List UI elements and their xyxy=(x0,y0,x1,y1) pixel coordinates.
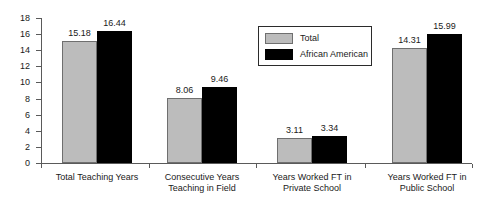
y-tick-mark xyxy=(36,147,41,148)
bar-value-label: 15.99 xyxy=(421,22,468,31)
legend-label-african-american: African American xyxy=(300,50,368,59)
y-tick-label: 14 xyxy=(0,46,30,55)
x-tick-mark xyxy=(149,164,150,168)
legend-swatch-african-american-icon xyxy=(265,49,293,60)
y-tick-label: 0 xyxy=(0,159,30,168)
bar-value-label: 15.18 xyxy=(56,29,103,38)
bar-value-label: 16.44 xyxy=(91,19,138,28)
x-tick-mark xyxy=(365,164,366,168)
y-tick-label: 8 xyxy=(0,95,30,104)
x-tick-mark xyxy=(41,164,42,168)
bar xyxy=(427,34,462,163)
y-tick-label: 4 xyxy=(0,127,30,136)
bar xyxy=(167,98,202,163)
y-tick-label: 12 xyxy=(0,62,30,71)
y-tick-label: 18 xyxy=(0,14,30,23)
legend-label-total: Total xyxy=(300,34,319,43)
x-tick-mark xyxy=(256,164,257,168)
bar xyxy=(62,41,97,163)
bar-value-label: 14.31 xyxy=(386,36,433,45)
bar-value-label: 8.06 xyxy=(161,86,208,95)
bar xyxy=(312,136,347,163)
y-tick-mark xyxy=(36,18,41,19)
y-tick-label: 6 xyxy=(0,111,30,120)
x-axis-category-label: Consecutive Years Teaching in Field xyxy=(142,172,262,194)
y-tick-mark xyxy=(36,50,41,51)
y-tick-mark xyxy=(36,66,41,67)
x-axis-category-label: Years Worked FT in Public School xyxy=(367,172,487,194)
y-tick-mark xyxy=(36,131,41,132)
legend-swatch-total-icon xyxy=(265,33,293,44)
bar xyxy=(392,48,427,163)
y-tick-label: 2 xyxy=(0,143,30,152)
y-tick-label: 10 xyxy=(0,78,30,87)
chart-legend: Total African American xyxy=(258,26,372,66)
bar-value-label: 9.46 xyxy=(196,75,243,84)
x-axis-category-label: Years Worked FT in Private School xyxy=(252,172,372,194)
y-tick-mark xyxy=(36,34,41,35)
x-axis-category-label: Total Teaching Years xyxy=(37,172,157,183)
bar-value-label: 3.34 xyxy=(306,124,353,133)
bar xyxy=(202,87,237,163)
bar-chart: 181614121086420 15.188.063.1114.3116.449… xyxy=(0,0,496,210)
bar xyxy=(97,31,132,163)
x-tick-mark xyxy=(472,164,473,168)
y-axis-line xyxy=(41,18,42,164)
legend-entry-african-american: African American xyxy=(265,48,368,61)
y-tick-mark xyxy=(36,82,41,83)
y-tick-mark xyxy=(36,99,41,100)
legend-entry-total: Total xyxy=(265,32,319,45)
bar xyxy=(277,138,312,163)
y-tick-label: 16 xyxy=(0,30,30,39)
y-tick-mark xyxy=(36,115,41,116)
